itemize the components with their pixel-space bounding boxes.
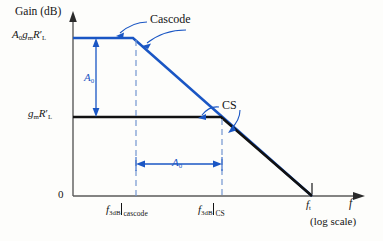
y-axis-title: Gain (dB) <box>15 6 61 18</box>
x-tick-label-f3db-cascode: f3dBcascode <box>106 203 148 217</box>
x-tick-label-ft: ft <box>306 199 311 212</box>
x-tick-label-f3db-cs: f3dBCS <box>198 203 225 217</box>
plot-canvas <box>0 0 383 241</box>
origin-label: 0 <box>58 189 64 200</box>
bode-plot-figure: Gain (dB) A0gmR′L gmR′L 0 f3dBcascode f3… <box>0 0 383 241</box>
axes-group <box>69 11 365 200</box>
y-axis-arrowhead <box>69 11 77 22</box>
cs-callout-label: CS <box>222 99 237 111</box>
x-axis-title: f <box>349 198 352 210</box>
cascode-callout-label: Cascode <box>150 13 191 25</box>
x-axis-scale-note: (log scale) <box>310 216 356 227</box>
x-axis-arrowhead <box>353 192 365 200</box>
cs-curve <box>73 117 312 196</box>
y-tick-label-gmrl: gmR′L <box>28 108 52 121</box>
a0-vertical-label: A0 <box>84 72 94 85</box>
cascode-leader-lines <box>116 22 186 49</box>
a0-horizontal-label: A0 <box>172 157 182 170</box>
cs-curve-group <box>73 117 312 196</box>
y-tick-label-a0gmrl: A0gmR′L <box>12 29 46 42</box>
